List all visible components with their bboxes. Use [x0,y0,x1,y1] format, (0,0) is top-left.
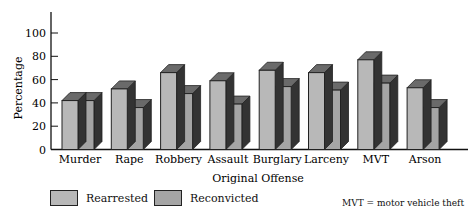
bar-reconvicted-side [242,96,250,149]
bar-rearrested [62,101,78,150]
bar-rearrested-side [423,80,431,150]
legend-swatch-reconvicted [154,190,182,206]
bar-rearrested-side [325,65,333,150]
bar-reconvicted-side [439,100,447,150]
y-tick-label: 20 [32,120,46,133]
legend-rearrested: Rearrested [50,190,148,206]
bar-rearrested-side [374,52,382,150]
bar-reconvicted-side [94,93,102,150]
bar-reconvicted-side [143,100,151,150]
bar-rearrested-side [275,62,283,149]
x-tick-label: Burglary [253,153,303,166]
bar-rearrested-side [127,81,135,150]
y-tick-label: 100 [25,27,46,40]
x-tick-label: MVT [363,153,390,166]
bar-rearrested-side [177,65,185,150]
bar-rearrested [259,70,275,149]
x-axis-label: Original Offense [212,172,304,185]
abbreviation-note: MVT = motor vehicle theft [342,198,464,208]
y-axis-label: Percentage [12,57,25,120]
bar-rearrested-side [78,93,86,150]
x-tick-label: Robbery [155,153,203,166]
legend-label-rearrested: Rearrested [86,192,148,205]
x-tick-label: Larceny [304,153,350,166]
legend-swatch-rearrested [50,190,78,206]
x-tick-label: Murder [59,153,102,166]
x-tick-label: Arson [408,153,442,166]
x-tick-label: Rape [115,153,144,166]
y-tick-label: 0 [39,144,46,157]
bar-rearrested [111,89,127,150]
bar-rearrested [309,73,325,150]
bar-rearrested [161,73,177,150]
y-tick-label: 80 [32,50,46,63]
y-tick-label: 40 [32,97,46,110]
bar-chart: 020406080100PercentageOriginal OffenseMu… [0,0,473,190]
bar-rearrested [358,60,374,150]
bar-reconvicted-side [291,79,299,150]
chart-root: 020406080100PercentageOriginal OffenseMu… [0,0,473,220]
bar-rearrested [407,88,423,150]
y-tick-label: 60 [32,74,46,87]
x-tick-label: Assault [206,153,248,166]
legend-reconvicted: Reconvicted [154,190,259,206]
bar-reconvicted-side [193,86,201,150]
bar-reconvicted-side [341,82,349,149]
legend-label-reconvicted: Reconvicted [190,192,259,205]
bar-reconvicted-side [390,75,398,149]
bar-rearrested-side [226,73,234,150]
bar-rearrested [210,81,226,150]
